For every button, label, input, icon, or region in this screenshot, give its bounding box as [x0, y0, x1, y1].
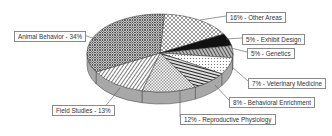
label-animal-behavior: Animal Behavior - 34%	[14, 31, 86, 42]
label-veterinary-medicine: 7% - Veterinary Medicine	[248, 78, 326, 89]
label-other-areas: 16% - Other Areas	[226, 12, 286, 23]
pie-top	[87, 14, 233, 92]
label-field-studies: Field Studies - 13%	[52, 105, 115, 116]
label-reproductive-physiology: 12% - Reproductive Physiology	[180, 114, 276, 125]
label-behavioral-enrichment: 8% - Behavioral Enrichment	[229, 97, 315, 108]
label-genetics: 5% - Genetics	[247, 48, 295, 59]
label-exhibit-design: 5% - Exhibit Design	[242, 34, 305, 45]
